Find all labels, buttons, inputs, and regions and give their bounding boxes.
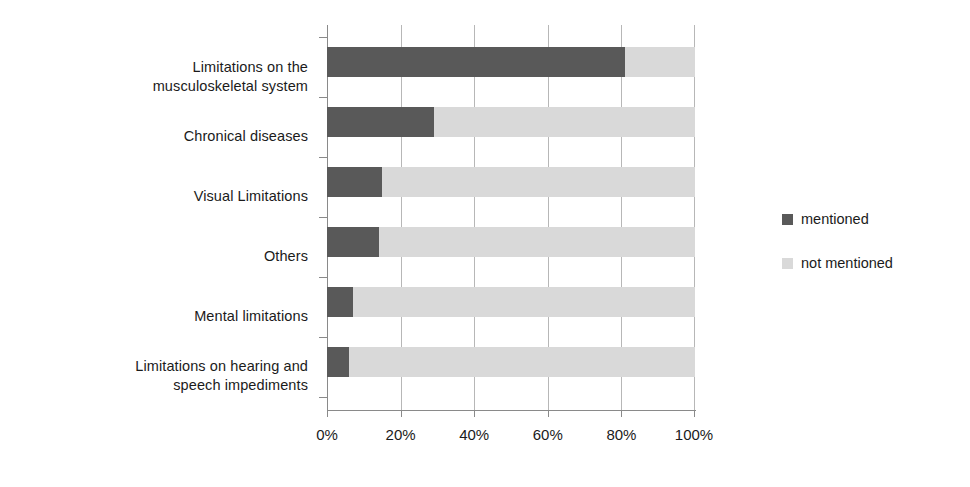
x-axis-tick xyxy=(548,411,549,417)
legend-label: not mentioned xyxy=(801,254,893,272)
category-label-musculoskeletal: Limitations on the musculoskeletal syste… xyxy=(8,58,308,96)
legend: mentionednot mentioned xyxy=(782,208,962,296)
x-axis-tick-label: 100% xyxy=(675,425,713,445)
y-axis-tick xyxy=(319,157,327,158)
legend-item: mentioned xyxy=(782,208,962,230)
bar-segment-mentioned xyxy=(327,47,625,77)
category-label-line: musculoskeletal system xyxy=(8,77,308,96)
bar-segment-mentioned xyxy=(327,167,382,197)
y-axis-category-labels: Limitations on the musculoskeletal syste… xyxy=(0,25,320,410)
x-axis-tick-labels: 0%20%40%60%80%100% xyxy=(327,425,696,449)
category-label-line: Chronical diseases xyxy=(8,127,308,146)
bar-segment-mentioned xyxy=(327,347,349,377)
x-axis-tick xyxy=(694,411,695,417)
stacked-bar-chart: Limitations on the musculoskeletal syste… xyxy=(0,0,970,487)
bar-row xyxy=(327,107,695,137)
category-label-others: Others xyxy=(8,247,308,266)
x-axis-tick-label: 20% xyxy=(386,425,416,445)
bar-segment-not-mentioned xyxy=(349,347,695,377)
x-axis-line xyxy=(327,410,696,411)
x-axis-tick xyxy=(621,411,622,417)
category-label-line: Limitations on the xyxy=(8,58,308,77)
bar-row xyxy=(327,287,695,317)
legend-item: not mentioned xyxy=(782,252,962,274)
category-label-hearing-speech: Limitations on hearing and speech impedi… xyxy=(8,357,308,395)
category-label-mental-limitations: Mental limitations xyxy=(8,307,308,326)
x-axis-tick-label: 60% xyxy=(533,425,563,445)
category-label-line: Limitations on hearing and xyxy=(8,357,308,376)
legend-swatch-icon xyxy=(782,214,793,225)
x-axis-tick xyxy=(474,411,475,417)
bar-row xyxy=(327,227,695,257)
bar-row xyxy=(327,47,695,77)
x-axis-tick-label: 40% xyxy=(459,425,489,445)
category-label-line: Others xyxy=(8,247,308,266)
bar-segment-not-mentioned xyxy=(353,287,695,317)
legend-label: mentioned xyxy=(801,210,869,228)
bar-segment-mentioned xyxy=(327,227,379,257)
y-axis-tick xyxy=(319,97,327,98)
plot-area xyxy=(327,25,695,410)
y-axis-tick xyxy=(319,217,327,218)
x-axis-tick-label: 0% xyxy=(316,425,338,445)
bar-segment-mentioned xyxy=(327,287,353,317)
category-label-chronical-diseases: Chronical diseases xyxy=(8,127,308,146)
x-axis-tick xyxy=(401,411,402,417)
category-label-line: speech impediments xyxy=(8,376,308,395)
legend-swatch-icon xyxy=(782,258,793,269)
category-label-visual-limitations: Visual Limitations xyxy=(8,187,308,206)
y-axis-tick xyxy=(319,277,327,278)
x-axis-tick xyxy=(327,411,328,417)
y-axis-tick xyxy=(319,337,327,338)
category-label-line: Mental limitations xyxy=(8,307,308,326)
bar-row xyxy=(327,347,695,377)
bar-segment-not-mentioned xyxy=(379,227,695,257)
y-axis-tick xyxy=(319,37,327,38)
bar-segment-not-mentioned xyxy=(382,167,695,197)
y-axis-tick xyxy=(319,397,327,398)
bar-segment-mentioned xyxy=(327,107,434,137)
bar-row xyxy=(327,167,695,197)
category-label-line: Visual Limitations xyxy=(8,187,308,206)
bar-segment-not-mentioned xyxy=(434,107,695,137)
bar-segment-not-mentioned xyxy=(625,47,695,77)
x-axis-tick-label: 80% xyxy=(606,425,636,445)
